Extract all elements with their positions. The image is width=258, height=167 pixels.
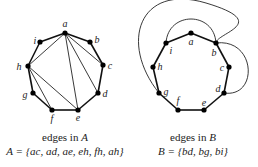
cycle-edge-de <box>78 93 98 110</box>
vertex-label-c: c <box>220 62 225 73</box>
caption-left-formula: A = {ac, ad, ae, eh, fh, ah} <box>0 145 130 157</box>
vertex-e <box>201 107 206 112</box>
cycle-edge-de <box>204 93 224 110</box>
vertex-label-c: c <box>108 60 113 71</box>
vertex-label-i: i <box>170 45 173 56</box>
vertex-d <box>95 90 100 95</box>
vertex-c <box>226 64 231 69</box>
vertex-label-a: a <box>63 18 68 29</box>
vertex-label-b: b <box>95 34 100 45</box>
vertex-label-f: f <box>51 113 55 124</box>
vertex-g <box>156 90 161 95</box>
cycle-edge-bc <box>90 42 103 65</box>
vertex-label-b: b <box>212 47 217 58</box>
vertex-a <box>188 30 193 35</box>
graph-b: abcdefghi <box>138 0 248 113</box>
vertex-label-i: i <box>34 35 37 46</box>
vertex-label-d: d <box>216 83 222 94</box>
graph-a: abcdefghi <box>17 18 113 124</box>
cycle-edge-ia <box>40 33 65 42</box>
vertex-g <box>30 90 35 95</box>
vertex-label-a: a <box>189 36 194 47</box>
vertex-label-g: g <box>23 89 28 100</box>
cycle-edge-cd <box>224 67 229 93</box>
vertex-label-e: e <box>202 97 207 108</box>
caption-right-formula: B = {bd, bg, bi} <box>128 145 258 157</box>
vertex-f <box>175 107 180 112</box>
vertex-label-h: h <box>17 61 22 72</box>
vertex-label-e: e <box>76 112 81 123</box>
chord-edge-eh <box>28 66 78 110</box>
vertex-i <box>163 40 168 45</box>
cycle-edge-ab <box>191 33 216 43</box>
vertex-d <box>221 90 226 95</box>
vertex-label-h: h <box>158 61 163 72</box>
vertex-f <box>49 107 54 112</box>
vertex-a <box>62 30 67 35</box>
cycle-edge-fg <box>33 93 52 110</box>
vertex-h <box>150 64 155 69</box>
vertex-b <box>213 40 218 45</box>
cycle-edge-ia <box>166 33 191 43</box>
vertex-b <box>87 39 92 44</box>
vertex-c <box>100 62 105 67</box>
cycle-edge-fg <box>159 93 178 110</box>
vertex-i <box>37 39 42 44</box>
vertex-label-f: f <box>177 95 181 106</box>
vertex-label-g: g <box>164 86 169 97</box>
caption-right-title: edges in B <box>128 131 258 143</box>
vertex-label-d: d <box>103 88 109 99</box>
caption-left-title: edges in A <box>0 131 130 143</box>
vertex-h <box>25 63 30 68</box>
